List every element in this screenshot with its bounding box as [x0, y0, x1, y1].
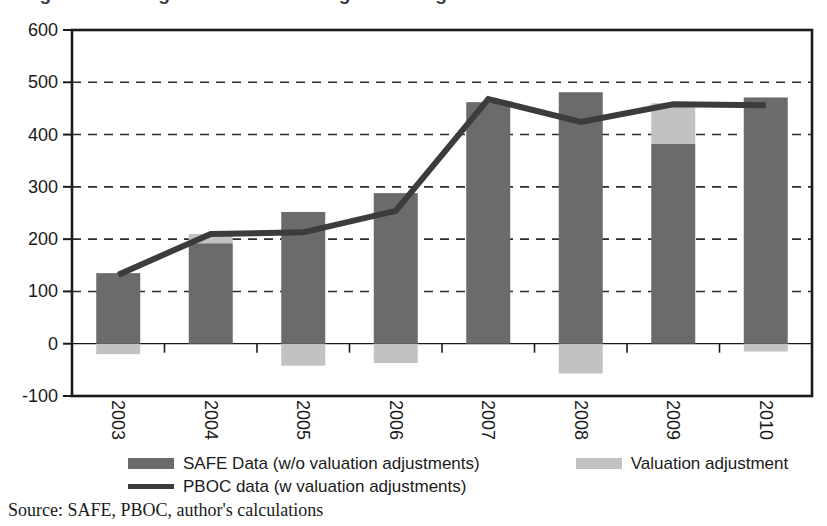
y-axis-tick-labels: -1000100200300400500600 — [0, 0, 58, 400]
legend-label-valuation-adjustment: Valuation adjustment — [631, 455, 789, 472]
x-tick-label-2004: 2004 — [202, 400, 220, 440]
x-tick-label-2006: 2006 — [387, 400, 405, 440]
y-tick-label: 400 — [2, 126, 58, 144]
y-tick-label: 500 — [2, 73, 58, 91]
y-tick-label: 200 — [2, 230, 58, 248]
legend-item-pboc-data: PBOC data (w valuation adjustments) — [128, 478, 466, 495]
legend-label-safe-data: SAFE Data (w/o valuation adjustments) — [183, 455, 480, 472]
plot-area: -1000100200300400500600 — [0, 0, 827, 400]
legend-swatch-valuation-adjustment — [576, 458, 622, 469]
y-tick-label: 0 — [2, 335, 58, 353]
legend-item-safe-data: SAFE Data (w/o valuation adjustments) — [128, 455, 480, 472]
legend-row-bottom: PBOC data (w valuation adjustments) — [0, 475, 827, 497]
legend-swatch-safe-data — [128, 458, 174, 469]
legend-row-top: SAFE Data (w/o valuation adjustments) Va… — [0, 452, 827, 474]
source-note: Source: SAFE, PBOC, author's calculation… — [8, 500, 323, 520]
legend-label-pboc-data: PBOC data (w valuation adjustments) — [183, 478, 466, 495]
x-tick-label-2009: 2009 — [664, 400, 682, 440]
y-tick-label: 300 — [2, 178, 58, 196]
legend-item-valuation-adjustment: Valuation adjustment — [576, 455, 789, 472]
chart-svg — [0, 0, 827, 400]
x-tick-label-2003: 2003 — [109, 400, 127, 440]
chart-legend: SAFE Data (w/o valuation adjustments) Va… — [0, 452, 827, 498]
x-tick-label-2010: 2010 — [757, 400, 775, 440]
x-tick-label-2008: 2008 — [572, 400, 590, 440]
legend-swatch-pboc-data — [128, 484, 174, 489]
y-tick-label: 100 — [2, 282, 58, 300]
y-tick-label: 600 — [2, 21, 58, 39]
x-tick-label-2005: 2005 — [294, 400, 312, 440]
figure-container: Figure 3. Changes in China's foreign exc… — [0, 0, 827, 526]
x-tick-label-2007: 2007 — [479, 400, 497, 440]
